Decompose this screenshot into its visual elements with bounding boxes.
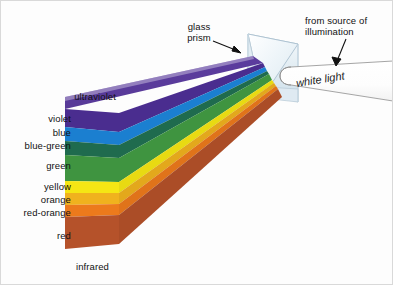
label-violet: violet (48, 114, 71, 124)
label-yellow: yellow (44, 182, 71, 192)
label-red: red (57, 231, 71, 241)
front-orange (65, 193, 119, 205)
annotation-source-line1: from source of (305, 15, 393, 26)
annotation-glass-prism: glass prism (177, 21, 221, 43)
front-red-orange (65, 204, 119, 217)
label-red-orange: red-orange (24, 208, 71, 218)
label-blue: blue (53, 128, 71, 138)
arrow-source-illumination (332, 39, 346, 66)
label-green: green (46, 161, 71, 171)
label-infrared: infrared (76, 262, 109, 272)
front-red (65, 215, 119, 249)
spectrum-bar (65, 56, 282, 249)
label-blue-green: blue-green (25, 141, 71, 151)
label-ultraviolet: ultraviolet (74, 92, 116, 102)
front-green (65, 155, 119, 182)
front-yellow (65, 181, 119, 193)
annotation-glass-prism-line1: glass (177, 21, 221, 32)
front-face-stack (65, 109, 119, 249)
diagram-canvas: ultraviolet infrared violet blue blue-gr… (0, 0, 393, 285)
annotation-source-line2: illumination (305, 26, 393, 37)
annotation-glass-prism-line2: prism (177, 32, 221, 43)
annotation-source-illumination: from source of illumination (305, 15, 393, 37)
label-orange: orange (41, 195, 71, 205)
